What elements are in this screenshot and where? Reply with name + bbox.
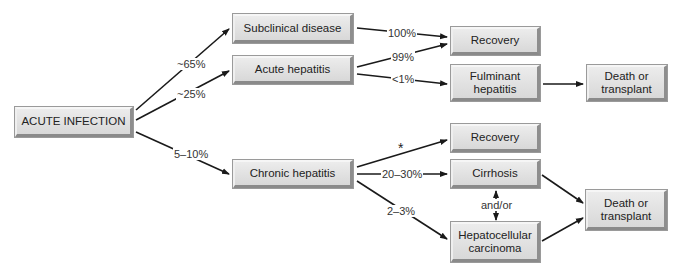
node-death-transplant-top: Death or transplant (587, 65, 667, 101)
edge-label-andor: and/or (480, 199, 513, 211)
node-acute-infection: ACUTE INFECTION (15, 107, 133, 137)
node-cirrhosis: Cirrhosis (451, 160, 540, 188)
edge-cirrhosis-death (542, 175, 583, 203)
edge-label-100: 100% (387, 27, 417, 39)
node-subclinical-disease: Subclinical disease (233, 14, 353, 43)
node-hepatocellular-carcinoma: Hepatocellular carcinoma (451, 222, 540, 262)
edge-label-2-3: 2–3% (386, 205, 416, 217)
edge-label-20-30: 20–30% (381, 168, 423, 180)
node-recovery-middle: Recovery (451, 124, 540, 152)
edge-label-lt1: <1% (391, 73, 415, 85)
node-recovery-top: Recovery (451, 27, 540, 55)
edge-label-25: ~25% (176, 88, 206, 100)
edge-label-99: 99% (391, 51, 415, 63)
edge-hcc-death (542, 218, 583, 241)
edge-label-5-10: 5–10% (173, 148, 209, 160)
node-chronic-hepatitis: Chronic hepatitis (233, 160, 353, 188)
edge-label-asterisk: * (398, 141, 403, 155)
node-fulminant-hepatitis: Fulminant hepatitis (451, 65, 540, 101)
node-acute-hepatitis: Acute hepatitis (233, 56, 353, 84)
node-death-transplant-bottom: Death or transplant (586, 190, 667, 230)
edge-label-65: ~65% (176, 58, 206, 70)
